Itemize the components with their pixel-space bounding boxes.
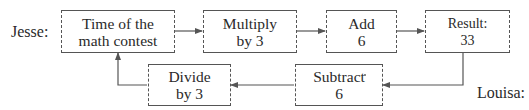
step-time-of-contest: Time of the math contest xyxy=(61,10,175,53)
step-line: Multiply xyxy=(223,15,277,32)
step-line: 6 xyxy=(335,85,343,102)
step-line: Add xyxy=(348,15,375,32)
step-divide: Divide by 3 xyxy=(148,64,231,106)
stray-dot xyxy=(364,74,366,76)
step-line: Result: xyxy=(448,15,488,32)
step-multiply: Multiply by 3 xyxy=(203,10,297,53)
arrow-divide-to-start xyxy=(118,53,147,85)
step-result: Result: 33 xyxy=(425,10,510,53)
step-line: Subtract xyxy=(313,68,365,85)
step-line: Time of the xyxy=(82,15,154,32)
step-subtract: Subtract 6 xyxy=(295,64,383,106)
jesse-label: Jesse: xyxy=(11,23,48,41)
step-line: by 3 xyxy=(236,32,263,49)
step-line: 33 xyxy=(461,32,475,49)
step-line: math contest xyxy=(79,32,158,49)
louisa-label: Louisa: xyxy=(477,84,525,102)
step-line: 6 xyxy=(358,32,366,49)
step-add: Add 6 xyxy=(326,10,397,53)
step-line: Divide xyxy=(168,68,210,85)
step-line: by 3 xyxy=(176,85,203,102)
arrow-result-to-subtract xyxy=(383,53,463,85)
